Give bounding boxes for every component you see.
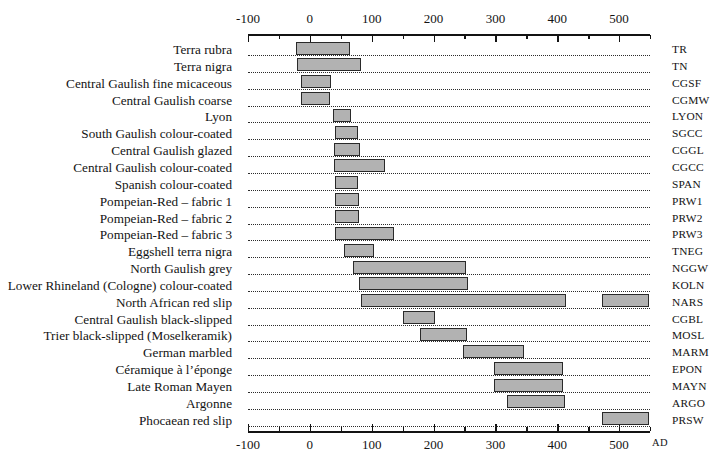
category-label: Pompeian-Red – fabric 1	[0, 195, 232, 208]
chart-row	[248, 410, 650, 428]
category-label: Eggshell terra nigra	[0, 245, 232, 258]
plot-area: AD -100-10000100100200200300300400400500…	[248, 34, 650, 434]
category-code: NGGW	[672, 263, 722, 274]
category-label: Pompeian-Red – fabric 3	[0, 228, 232, 241]
category-label: South Gaulish colour-coated	[0, 127, 232, 140]
x-tick-label-top: -100	[218, 12, 278, 25]
chart-row	[248, 90, 650, 108]
date-range-bar	[361, 294, 566, 307]
chart-row	[248, 73, 650, 91]
x-tick-label-bottom: 400	[527, 438, 587, 451]
date-range-bar	[335, 126, 359, 139]
date-range-bar	[335, 210, 359, 223]
category-code: PRW1	[672, 196, 722, 207]
chart-row	[248, 393, 650, 411]
chart-row	[248, 309, 650, 327]
date-range-bar	[344, 244, 374, 257]
x-tick-label-bottom: 0	[280, 438, 340, 451]
chart-row	[248, 359, 650, 377]
category-label: Central Gaulish glazed	[0, 144, 232, 157]
date-range-bar	[602, 412, 649, 425]
date-range-bar	[359, 277, 468, 290]
category-code: CGBL	[672, 314, 722, 325]
x-tick-label-top: 200	[404, 12, 464, 25]
chart-row	[248, 224, 650, 242]
x-tick-label-top: 0	[280, 12, 340, 25]
category-label: Late Roman Mayen	[0, 380, 232, 393]
category-label: Central Gaulish coarse	[0, 94, 232, 107]
category-label: Céramique à l’éponge	[0, 363, 232, 376]
category-code: MARM	[672, 347, 722, 358]
category-code: MAYN	[672, 381, 722, 392]
x-tick-minor-top	[650, 35, 651, 39]
category-label: North African red slip	[0, 296, 232, 309]
category-code: TR	[672, 44, 722, 55]
x-tick-label-bottom: 100	[342, 438, 402, 451]
chart-row	[248, 123, 650, 141]
category-code: CGGL	[672, 145, 722, 156]
top-axis-line	[248, 34, 650, 36]
chart-row	[248, 208, 650, 226]
category-label: Argonne	[0, 397, 232, 410]
x-tick-label-bottom: 500	[589, 438, 649, 451]
category-code: ARGO	[672, 398, 722, 409]
date-range-bar	[353, 261, 466, 274]
category-label: Lyon	[0, 110, 232, 123]
category-code: LYON	[672, 111, 722, 122]
category-code: PRSW	[672, 415, 722, 426]
category-code: PRW2	[672, 213, 722, 224]
x-tick-label-top: 100	[342, 12, 402, 25]
chart-row	[248, 157, 650, 175]
date-range-bar	[463, 345, 524, 358]
date-range-bar	[494, 379, 563, 392]
chart-row	[248, 191, 650, 209]
x-tick-label-top: 400	[527, 12, 587, 25]
chart-row	[248, 342, 650, 360]
date-range-bar	[334, 159, 385, 172]
date-range-bar	[301, 75, 331, 88]
chart-row	[248, 325, 650, 343]
chart-row	[248, 106, 650, 124]
date-range-bar	[403, 311, 435, 324]
date-range-bar	[297, 58, 361, 71]
chart-row	[248, 56, 650, 74]
date-range-bar	[335, 176, 359, 189]
category-code: NARS	[672, 297, 722, 308]
x-tick-label-bottom: -100	[218, 438, 278, 451]
category-code: CGSF	[672, 78, 722, 89]
x-tick-label-bottom: 200	[404, 438, 464, 451]
category-label: Terra rubra	[0, 43, 232, 56]
chart-row	[248, 292, 650, 310]
category-label: Central Gaulish fine micaceous	[0, 77, 232, 90]
category-label: Spanish colour-coated	[0, 178, 232, 191]
chart-row	[248, 376, 650, 394]
category-label: Trier black-slipped (Moselkeramik)	[0, 329, 232, 342]
category-code: PRW3	[672, 229, 722, 240]
category-label: German marbled	[0, 346, 232, 359]
category-label: Phocaean red slip	[0, 414, 232, 427]
chart-row	[248, 241, 650, 259]
category-code: MOSL	[672, 330, 722, 341]
row-guide-dotted-line	[248, 426, 650, 427]
category-label: Central Gaulish colour-coated	[0, 161, 232, 174]
category-label: Pompeian-Red – fabric 2	[0, 212, 232, 225]
date-range-bar	[296, 42, 350, 55]
category-code: CGMW	[672, 95, 722, 106]
date-range-bar	[602, 294, 649, 307]
category-label: North Gaulish grey	[0, 262, 232, 275]
category-code: SPAN	[672, 179, 722, 190]
date-range-bar	[335, 227, 394, 240]
category-code: SGCC	[672, 128, 722, 139]
x-tick-minor-bottom	[650, 427, 651, 431]
date-range-bar	[507, 395, 565, 408]
category-code: TN	[672, 61, 722, 72]
date-range-bar	[335, 193, 359, 206]
date-range-bar	[301, 92, 330, 105]
date-range-bar	[333, 109, 352, 122]
x-tick-label-top: 300	[465, 12, 525, 25]
date-range-bar	[420, 328, 467, 341]
date-range-bar	[494, 362, 563, 375]
chart-row	[248, 39, 650, 57]
roman-pottery-date-range-chart: AD -100-10000100100200200300300400400500…	[0, 0, 723, 471]
chart-row	[248, 174, 650, 192]
